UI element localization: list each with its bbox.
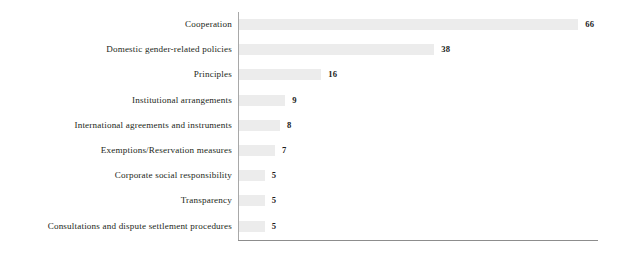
category-label: Corporate social responsibility [2, 168, 232, 182]
bar-row: Cooperation66 [0, 19, 638, 30]
bar-value-label: 66 [585, 18, 594, 30]
bar-value-label: 5 [272, 194, 276, 206]
x-axis-line [238, 240, 598, 241]
bar-value-label: 8 [287, 119, 291, 131]
bar-fill [239, 120, 280, 131]
bar-track [239, 69, 321, 80]
bar-value-label: 9 [292, 94, 296, 106]
bar-track [239, 19, 578, 30]
category-label: Cooperation [2, 17, 232, 31]
bar-row: Exemptions/Reservation measures7 [0, 145, 638, 156]
category-label: Domestic gender-related policies [2, 42, 232, 56]
bar-value-label: 38 [441, 43, 450, 55]
bar-fill [239, 19, 578, 30]
bar-row: Consultations and dispute settlement pro… [0, 221, 638, 232]
bar-row: Institutional arrangements9 [0, 95, 638, 106]
bar-fill [239, 69, 321, 80]
bar-value-label: 5 [272, 220, 276, 232]
category-label: Exemptions/Reservation measures [2, 143, 232, 157]
bar-row: Corporate social responsibility5 [0, 170, 638, 181]
category-label: Consultations and dispute settlement pro… [2, 219, 232, 233]
category-label: Institutional arrangements [2, 93, 232, 107]
bar-track [239, 120, 280, 131]
bar-row: Transparency5 [0, 195, 638, 206]
category-label: Transparency [2, 193, 232, 207]
category-label: International agreements and instruments [2, 118, 232, 132]
bar-row: Domestic gender-related policies38 [0, 44, 638, 55]
bar-value-label: 5 [272, 169, 276, 181]
category-label: Principles [2, 67, 232, 81]
bar-track [239, 44, 434, 55]
bar-track [239, 95, 285, 106]
bar-fill [239, 145, 275, 156]
bar-fill [239, 170, 265, 181]
bar-fill [239, 195, 265, 206]
bar-value-label: 16 [328, 68, 337, 80]
bar-value-label: 7 [282, 144, 286, 156]
bar-fill [239, 44, 434, 55]
bar-track [239, 195, 265, 206]
bar-track [239, 170, 265, 181]
bar-track [239, 145, 275, 156]
bar-row: Principles16 [0, 69, 638, 80]
bar-chart: Cooperation66Domestic gender-related pol… [0, 0, 638, 262]
bar-fill [239, 221, 265, 232]
bar-row: International agreements and instruments… [0, 120, 638, 131]
bar-track [239, 221, 265, 232]
bar-fill [239, 95, 285, 106]
plot-area: Cooperation66Domestic gender-related pol… [0, 0, 638, 262]
